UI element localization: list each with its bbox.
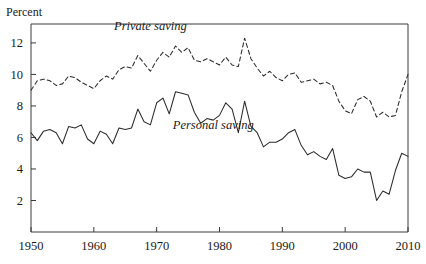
x-tick-label: 2010 bbox=[396, 239, 421, 253]
y-axis-title: Percent bbox=[6, 5, 43, 19]
series-annotation-private-saving: Private saving bbox=[113, 19, 187, 33]
x-tick-label: 2000 bbox=[333, 239, 358, 253]
series-line-personal-saving bbox=[31, 92, 408, 201]
x-tick-label: 1950 bbox=[19, 239, 44, 253]
y-axis-ticks: 24681012 bbox=[11, 36, 37, 208]
y-tick-label: 10 bbox=[11, 68, 24, 82]
chart-figure: Percent 24681012 19501960197019801990200… bbox=[0, 0, 426, 264]
series-line-private-saving bbox=[31, 38, 408, 117]
y-tick-label: 12 bbox=[11, 36, 24, 50]
series-annotation-personal-saving: Personal saving bbox=[172, 118, 254, 132]
series-annotations: Private savingPersonal saving bbox=[113, 19, 254, 132]
y-tick-label: 6 bbox=[17, 131, 23, 145]
x-tick-label: 1980 bbox=[207, 239, 232, 253]
y-tick-label: 2 bbox=[17, 194, 23, 208]
x-tick-label: 1960 bbox=[81, 239, 106, 253]
x-tick-label: 1970 bbox=[144, 239, 169, 253]
y-tick-label: 8 bbox=[17, 99, 23, 113]
chart-canvas: Percent 24681012 19501960197019801990200… bbox=[0, 0, 426, 264]
x-tick-label: 1990 bbox=[270, 239, 295, 253]
y-tick-label: 4 bbox=[17, 162, 24, 176]
x-axis-ticks: 1950196019701980199020002010 bbox=[19, 227, 421, 253]
